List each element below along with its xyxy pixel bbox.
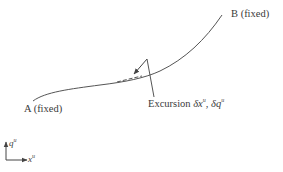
excursion-dashed-curve [117,76,142,82]
x-axis-sup: u [32,153,35,159]
excursion-dq: δq [211,98,221,109]
point-a-label: A (fixed) [24,103,62,114]
excursion-dx: δx [193,98,203,109]
diagram-canvas [0,0,283,172]
excursion-arrow [134,59,147,74]
y-axis-label: qu [9,137,17,148]
excursion-dq-sup: u [221,97,224,103]
path-curve [33,15,222,101]
y-axis-sup: u [14,137,17,143]
excursion-leader-line [147,59,154,97]
point-b-label: B (fixed) [231,8,269,19]
excursion-label: Excursion δxu, δqu [148,97,224,109]
x-axis-label: xu [28,153,35,164]
excursion-prefix: Excursion [148,98,193,109]
